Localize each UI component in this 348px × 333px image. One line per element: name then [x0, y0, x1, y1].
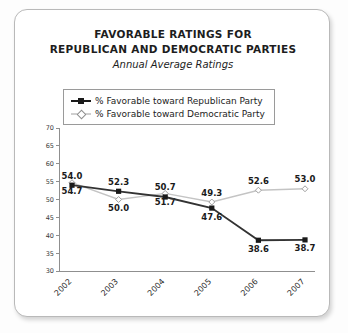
y-tick-label: 35: [46, 250, 54, 258]
data-label: 47.6: [201, 212, 222, 222]
y-tick-label: 50: [46, 196, 54, 204]
series-marker-republican: [209, 205, 214, 210]
series-marker-democratic: [255, 187, 261, 193]
series-marker-democratic: [116, 197, 122, 203]
x-tick-label: 2005: [192, 277, 213, 298]
series-marker-republican: [302, 237, 307, 242]
data-label: 38.7: [295, 243, 316, 253]
series-marker-democratic: [302, 186, 308, 192]
y-tick-label: 30: [46, 267, 54, 275]
data-label: 38.6: [248, 244, 269, 254]
data-label: 53.0: [295, 174, 316, 184]
series-line-democratic: [72, 183, 305, 202]
data-label: 52.6: [248, 176, 269, 186]
x-tick-label: 2006: [239, 277, 260, 298]
series-marker-republican: [163, 194, 168, 199]
data-label: 52.3: [108, 177, 129, 187]
x-tick-label: 2002: [53, 277, 74, 298]
series-marker-republican: [69, 183, 74, 188]
series-line-republican: [72, 185, 305, 240]
page-background: FAVORABLE RATINGS FOR REPUBLICAN AND DEM…: [0, 0, 348, 333]
y-tick-label: 65: [46, 142, 54, 150]
y-tick-label: 60: [46, 160, 54, 168]
series-marker-democratic: [209, 199, 215, 205]
data-label: 50.7: [155, 182, 176, 192]
data-label: 50.0: [108, 203, 129, 213]
y-tick-label: 55: [46, 178, 54, 186]
data-label: 49.3: [201, 188, 222, 198]
data-label: 54.0: [62, 171, 83, 181]
x-tick-label: 2007: [286, 277, 307, 298]
y-tick-label: 45: [46, 214, 54, 222]
chart-plot-area: 3035404550556065702002200320042005200620…: [15, 10, 330, 317]
x-tick-label: 2004: [146, 277, 167, 298]
line-chart: 3035404550556065702002200320042005200620…: [15, 10, 330, 317]
chart-card: FAVORABLE RATINGS FOR REPUBLICAN AND DEM…: [14, 9, 330, 317]
x-tick-label: 2003: [99, 277, 120, 298]
series-marker-republican: [256, 238, 261, 243]
y-tick-label: 40: [46, 232, 54, 240]
y-tick-label: 70: [46, 124, 54, 132]
series-marker-republican: [116, 189, 121, 194]
